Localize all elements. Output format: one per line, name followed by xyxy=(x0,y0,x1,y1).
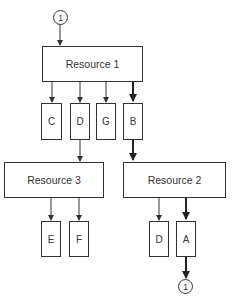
resource-2-label: Resource 2 xyxy=(148,174,202,186)
item-e-node: E xyxy=(41,221,61,257)
item-a-label: A xyxy=(183,234,190,245)
item-c-label: C xyxy=(48,116,55,127)
connector-bottom: 1 xyxy=(178,279,193,294)
item-d-node: D xyxy=(70,103,90,140)
resource-3-node: Resource 3 xyxy=(4,162,104,198)
item-c-node: C xyxy=(41,103,62,140)
item-g-node: G xyxy=(96,103,116,140)
item-d2-label: D xyxy=(155,234,162,245)
item-b-label: B xyxy=(130,116,137,127)
item-e-label: E xyxy=(48,234,55,245)
item-f-node: F xyxy=(69,221,89,257)
resource-1-label: Resource 1 xyxy=(66,58,120,70)
item-f-label: F xyxy=(76,234,82,245)
item-g-label: G xyxy=(102,116,110,127)
item-a-node: A xyxy=(176,221,196,257)
connector-bottom-label: 1 xyxy=(183,282,188,292)
connector-top-label: 1 xyxy=(58,13,63,23)
resource-1-node: Resource 1 xyxy=(42,46,143,82)
item-d2-node: D xyxy=(149,221,169,257)
resource-3-label: Resource 3 xyxy=(27,174,81,186)
resource-2-node: Resource 2 xyxy=(123,162,226,198)
item-b-node: B xyxy=(123,103,143,140)
connector-top: 1 xyxy=(53,10,68,25)
item-d-label: D xyxy=(76,116,83,127)
